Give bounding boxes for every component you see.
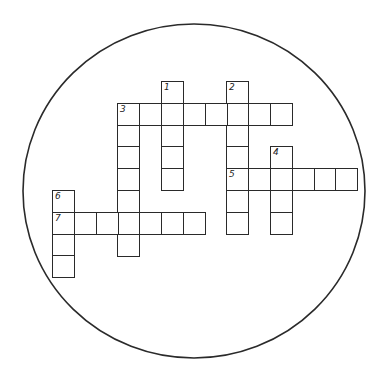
clue-number: 1 xyxy=(164,82,170,92)
crossword-cell[interactable] xyxy=(270,212,293,235)
crossword-cell[interactable]: 4 xyxy=(270,146,293,169)
crossword-cell[interactable] xyxy=(270,168,293,191)
crossword-cell[interactable] xyxy=(226,103,249,126)
crossword-cell[interactable] xyxy=(226,212,249,235)
crossword-cell[interactable] xyxy=(161,146,184,169)
crossword-cell[interactable]: 7 xyxy=(52,212,75,235)
clue-number: 5 xyxy=(229,169,235,179)
clue-number: 2 xyxy=(229,82,235,92)
crossword-cell[interactable]: 2 xyxy=(226,81,249,104)
crossword-cell[interactable] xyxy=(74,212,97,235)
crossword-cell[interactable] xyxy=(139,212,162,235)
crossword-cell[interactable] xyxy=(248,103,271,126)
crossword-cell[interactable] xyxy=(117,125,140,148)
crossword-cell[interactable] xyxy=(335,168,358,191)
crossword-cell[interactable] xyxy=(161,103,184,126)
crossword-cell[interactable] xyxy=(226,190,249,213)
clue-number: 3 xyxy=(120,104,126,114)
crossword-cell[interactable] xyxy=(96,212,119,235)
crossword-cell[interactable] xyxy=(139,103,162,126)
crossword-cell[interactable] xyxy=(183,103,206,126)
crossword-cell[interactable] xyxy=(270,103,293,126)
crossword-cell[interactable] xyxy=(161,212,184,235)
crossword-cell[interactable] xyxy=(117,146,140,169)
crossword-cell[interactable] xyxy=(183,212,206,235)
crossword-cell[interactable] xyxy=(248,168,271,191)
crossword-cell[interactable]: 5 xyxy=(226,168,249,191)
crossword-cell[interactable] xyxy=(117,212,140,235)
crossword-cell[interactable] xyxy=(292,168,315,191)
crossword-cell[interactable]: 6 xyxy=(52,190,75,213)
crossword-cell[interactable] xyxy=(52,234,75,257)
crossword-cell[interactable] xyxy=(117,190,140,213)
clue-number: 6 xyxy=(55,191,61,201)
crossword-cell[interactable] xyxy=(226,125,249,148)
crossword-cell[interactable] xyxy=(161,125,184,148)
crossword-cell[interactable] xyxy=(117,168,140,191)
crossword-cell[interactable] xyxy=(161,168,184,191)
crossword-cell[interactable] xyxy=(270,190,293,213)
crossword-board: 1253467 xyxy=(0,0,388,383)
clue-number: 4 xyxy=(273,147,279,157)
crossword-cell[interactable] xyxy=(226,146,249,169)
crossword-cell[interactable] xyxy=(117,234,140,257)
crossword-cell[interactable] xyxy=(52,255,75,278)
crossword-cell[interactable]: 3 xyxy=(117,103,140,126)
crossword-cell[interactable]: 1 xyxy=(161,81,184,104)
crossword-cell[interactable] xyxy=(314,168,337,191)
crossword-cell[interactable] xyxy=(205,103,228,126)
clue-number: 7 xyxy=(55,213,61,223)
